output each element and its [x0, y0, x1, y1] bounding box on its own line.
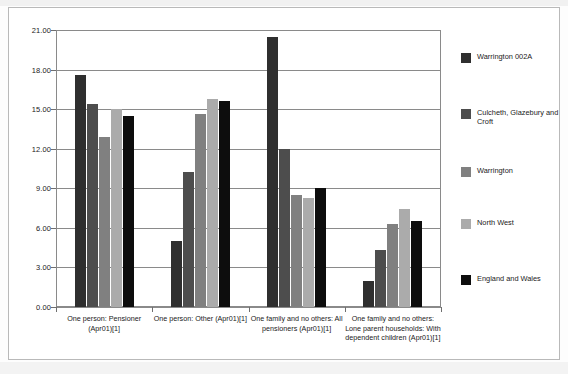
page-edge-bottom	[0, 362, 568, 374]
bar	[363, 281, 374, 307]
bar	[279, 149, 290, 307]
legend-swatch-icon	[461, 109, 471, 119]
legend-swatch-icon	[461, 219, 471, 229]
x-tick-mark	[249, 307, 250, 312]
bar	[87, 104, 98, 307]
bar	[171, 241, 182, 307]
bar	[99, 137, 110, 307]
bar	[303, 198, 314, 307]
bar	[219, 101, 230, 307]
bar	[195, 114, 206, 307]
legend-item[interactable]: Culcheth, Glazebury and Croft	[461, 108, 568, 126]
legend-item[interactable]: Warrington	[461, 166, 568, 177]
bar	[183, 172, 194, 307]
bar	[291, 195, 302, 307]
page-edge-top	[0, 0, 568, 6]
y-axis-tick-label: 18.00	[32, 65, 51, 74]
x-tick-mark	[56, 307, 57, 312]
legend-item[interactable]: Warrington 002A	[461, 52, 568, 63]
legend-item[interactable]: North West	[461, 218, 568, 229]
legend-label: Warrington 002A	[477, 52, 532, 61]
bar	[267, 37, 278, 307]
x-tick-mark	[152, 307, 153, 312]
legend-swatch-icon	[461, 53, 471, 63]
x-axis-category-label: One person: Pensioner (Apr01)[1]	[56, 314, 152, 333]
legend-swatch-icon	[461, 275, 471, 285]
bar	[75, 75, 86, 307]
legend-label: England and Wales	[477, 274, 541, 283]
bar	[375, 250, 386, 307]
legend-swatch-icon	[461, 167, 471, 177]
bar-group	[249, 30, 345, 307]
plot-wrap: 21.0018.0015.0012.009.006.003.000.00 One…	[56, 30, 441, 307]
x-axis-category-label: One family and no others: All pensioners…	[249, 314, 345, 333]
bar	[399, 209, 410, 307]
bar-group	[345, 30, 441, 307]
bar-group	[152, 30, 248, 307]
y-axis-tick-label: 21.00	[32, 26, 51, 35]
x-axis-category-label: One family and no others: Lone parent ho…	[345, 314, 441, 343]
y-axis-tick-label: 12.00	[32, 144, 51, 153]
bar	[207, 99, 218, 307]
bar	[411, 221, 422, 307]
legend-item[interactable]: England and Wales	[461, 274, 568, 285]
bar-group	[56, 30, 152, 307]
bar	[123, 116, 134, 307]
x-tick-mark	[441, 307, 442, 312]
y-axis-tick-label: 9.00	[36, 184, 51, 193]
legend-label: Culcheth, Glazebury and Croft	[477, 108, 568, 126]
bar	[315, 188, 326, 307]
legend-label: North West	[477, 218, 514, 227]
bar	[387, 224, 398, 307]
bars-layer	[56, 30, 441, 307]
y-axis-tick-label: 6.00	[36, 223, 51, 232]
chart-outer-frame: 21.0018.0015.0012.009.006.003.000.00 One…	[8, 7, 560, 360]
x-tick-mark	[345, 307, 346, 312]
y-axis-tick-label: 3.00	[36, 263, 51, 272]
y-axis-tick-label: 15.00	[32, 105, 51, 114]
legend-label: Warrington	[477, 166, 513, 175]
bar	[111, 109, 122, 307]
y-axis-tick-label: 0.00	[36, 303, 51, 312]
x-axis-category-label: One person: Other (Apr01)[1]	[152, 314, 248, 324]
chart-page: 21.0018.0015.0012.009.006.003.000.00 One…	[0, 0, 568, 374]
